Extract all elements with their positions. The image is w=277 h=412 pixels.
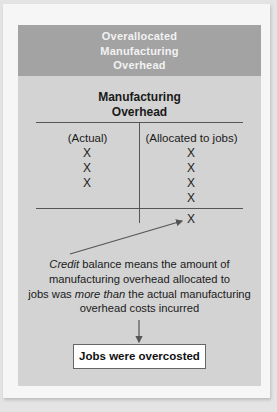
diagram-panel: Overallocated Manufacturing Overhead Man…	[18, 25, 261, 386]
credit-word: Credit	[49, 258, 79, 270]
result-box: Jobs were overcosted	[73, 344, 206, 369]
figure-card: Overallocated Manufacturing Overhead Man…	[3, 4, 270, 398]
explanation-line-4: overhead costs incurred	[18, 301, 261, 316]
explanation-line-1: balance means the amount of	[79, 258, 230, 270]
explanation-line-3-pre: jobs was	[28, 288, 75, 300]
explanation-line-2: manufacturing overhead allocated to	[18, 272, 261, 287]
explanation-line-3-post: the actual manufacturing	[125, 288, 251, 300]
emphasis-more-than: more than	[75, 288, 125, 300]
credit-balance-explanation: Credit balance means the amount of manuf…	[18, 257, 261, 316]
connector-arrows-icon	[18, 25, 261, 386]
